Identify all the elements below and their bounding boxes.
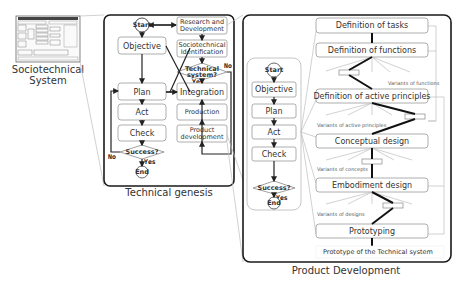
tg-no-label: No [108, 153, 116, 161]
pd-plan-label: Plan [265, 107, 282, 116]
sociotechnical-caption-2: System [29, 75, 66, 86]
variants-of-designs-fan [326, 192, 412, 224]
tg-plan-label: Plan [133, 88, 150, 97]
act-fan-lines [301, 31, 316, 234]
product-development-caption: Product Development [292, 265, 401, 276]
prototype-output-label: Prototype of the Technical system [323, 248, 433, 256]
tg-act-label: Act [136, 108, 149, 117]
pd-stages: Definition of tasks Definition of functi… [313, 18, 430, 238]
pd-end-label: End [267, 199, 281, 207]
stage-label: Definition of functions [328, 46, 416, 55]
variants-of-functions-label: Variants of functions [388, 80, 440, 86]
stage-label: Definition of active principles [313, 92, 430, 101]
tg-decision-label: Success? [126, 148, 159, 156]
tg-research-label-2: Development [180, 25, 224, 33]
variants-of-concepts-fan [326, 148, 412, 178]
tg-objective-label: Objective [123, 42, 161, 51]
tg-no-loop-arrow [111, 91, 120, 152]
stage-label: Prototyping [349, 227, 395, 236]
variants-of-designs-label: Variants of designs [317, 211, 365, 218]
pd-start-label: Start [265, 66, 284, 74]
stage-label: Conceptual design [335, 137, 409, 146]
technical-genesis-caption: Technical genesis [124, 187, 212, 198]
sociotechnical-caption-1: Sociotechnical [12, 64, 84, 75]
tg-start-label: Start [133, 21, 152, 29]
tg-yes-label: Yes [144, 158, 156, 166]
pd-act-label: Act [268, 128, 281, 137]
tg-right-no-label: No [224, 62, 232, 70]
sociotechnical-system-thumbnail [16, 16, 80, 62]
diagram-canvas: Sociotechnical System Start Objective Pl… [0, 0, 460, 286]
zoom-line [80, 15, 104, 16]
tg-integration-label: Integration [180, 88, 224, 97]
tg-check-label: Check [130, 129, 155, 138]
pd-decision-label: Success? [258, 184, 291, 192]
variants-of-concepts-label: Variants of concepts [317, 166, 368, 173]
pd-objective-label: Objective [255, 85, 293, 94]
variants-of-active-principles-label: Variants of active principles [317, 122, 387, 129]
zoom-line [80, 62, 104, 186]
stage-label: Embodiment design [332, 181, 412, 190]
variants-of-active-principles-fan [326, 103, 425, 134]
tg-end-label: End [135, 168, 149, 176]
stage-label: Definition of tasks [336, 21, 409, 30]
pd-check-label: Check [262, 150, 287, 159]
